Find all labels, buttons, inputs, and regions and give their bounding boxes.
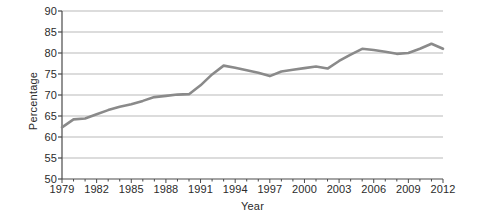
gridlines <box>62 11 443 158</box>
line-chart: Percentage 505560657075808590 1979198219… <box>0 0 478 222</box>
x-axis-title: Year <box>62 200 443 212</box>
plot-area <box>0 0 478 222</box>
series-line-0 <box>62 44 443 128</box>
data-series <box>62 44 443 128</box>
tick-marks <box>58 11 443 183</box>
